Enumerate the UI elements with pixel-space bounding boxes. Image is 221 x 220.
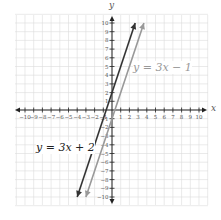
svg-text:10: 10 [102,20,109,26]
svg-text:9: 9 [189,114,193,120]
svg-text:−8: −8 [38,114,47,120]
svg-text:−10: −10 [97,194,109,200]
svg-text:−9: −9 [100,185,109,191]
svg-text:2: 2 [128,114,132,120]
svg-text:−3: −3 [82,114,91,120]
svg-text:−6: −6 [56,114,65,120]
svg-text:−8: −8 [100,177,109,183]
axes [15,16,207,204]
svg-text:4: 4 [145,114,149,120]
svg-text:6: 6 [105,55,109,61]
svg-text:3: 3 [105,81,109,87]
svg-text:−4: −4 [73,114,82,120]
svg-text:6: 6 [162,114,166,120]
svg-text:1: 1 [119,114,123,120]
svg-text:8: 8 [180,114,184,120]
line-label-3x-minus-1: y = 3x − 1 [133,61,192,74]
svg-text:4: 4 [105,72,109,78]
x-axis-label: x [211,103,216,113]
svg-text:2: 2 [105,90,109,96]
y-axis-label: y [109,0,114,10]
svg-text:7: 7 [171,114,175,120]
svg-text:8: 8 [105,37,109,43]
svg-text:5: 5 [154,114,158,120]
svg-text:−7: −7 [100,168,109,174]
svg-text:7: 7 [105,46,109,52]
svg-text:−2: −2 [91,114,99,120]
svg-text:−5: −5 [64,114,73,120]
line-label-3x-plus-2: y = 3x + 2 [36,141,95,154]
svg-text:−6: −6 [100,159,109,165]
svg-text:−7: −7 [47,114,56,120]
coordinate-plane: −10−9−8−7−6−5−4−3−2−112345678910−10−9−8−… [0,0,221,220]
svg-text:9: 9 [105,29,109,35]
svg-text:5: 5 [105,64,109,70]
svg-text:10: 10 [196,114,203,120]
svg-text:3: 3 [136,114,140,120]
svg-text:−9: −9 [30,114,39,120]
